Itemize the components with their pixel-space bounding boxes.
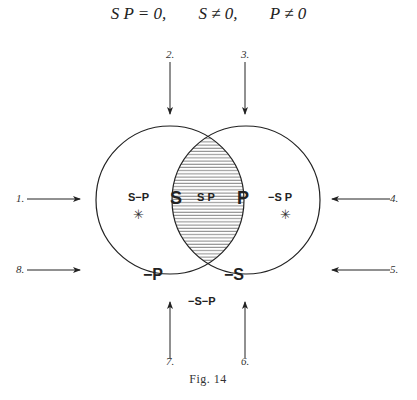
region-label-neither: −S−P: [188, 295, 216, 307]
arrow-6: 6.: [241, 302, 249, 367]
arrow-8: 8.: [16, 263, 80, 275]
arrow-5: 5.: [332, 263, 398, 275]
arrow-8-number: 8.: [16, 263, 24, 275]
arrow-2: 2.: [166, 48, 174, 114]
arrow-4: 4.: [332, 192, 398, 204]
arrow-7: 7.: [166, 302, 174, 367]
region-label-s-not-p: S−P: [128, 191, 149, 203]
arrow-1: 1.: [16, 192, 80, 204]
region-label-s-and-p: S P: [197, 191, 215, 203]
star-icon-right: ✳: [280, 207, 291, 222]
circle-label-p: P: [237, 188, 249, 208]
arrow-2-number: 2.: [166, 48, 174, 60]
arrow-7-number: 7.: [166, 355, 174, 367]
region-label-not-s-p: −S P: [268, 191, 292, 203]
complement-label-not-p: −P: [143, 266, 163, 283]
arrow-6-number: 6.: [241, 355, 249, 367]
figure-caption: Fig. 14: [189, 372, 227, 386]
arrow-3-number: 3.: [240, 48, 249, 60]
venn-diagram: S−P ✳ S S P P −S P ✳ −P −S −S−P 1. 8. 2.…: [0, 0, 417, 400]
star-icon-left: ✳: [133, 207, 144, 222]
arrow-5-number: 5.: [390, 263, 398, 275]
arrow-3: 3.: [240, 48, 249, 114]
arrow-1-number: 1.: [16, 192, 24, 204]
arrow-4-number: 4.: [390, 192, 398, 204]
complement-label-not-s: −S: [224, 266, 244, 283]
circle-label-s: S: [170, 188, 182, 208]
